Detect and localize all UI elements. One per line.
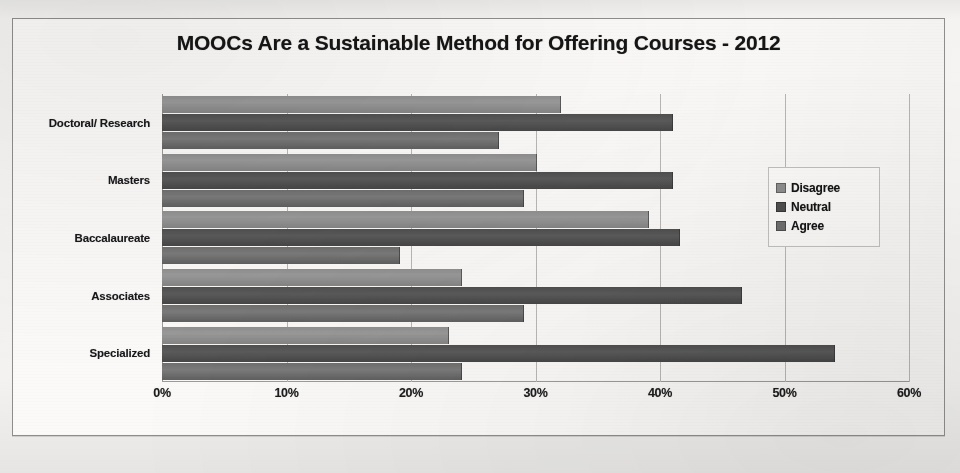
bar-group: Doctoral/ Research: [162, 94, 909, 152]
bar-neutral: [162, 345, 835, 362]
bar-disagree: [162, 96, 561, 113]
legend-label: Neutral: [791, 200, 831, 214]
category-label: Associates: [91, 290, 150, 302]
category-label: Specialized: [90, 347, 150, 359]
bar-neutral: [162, 172, 673, 189]
bar-agree: [162, 305, 524, 322]
bar-disagree: [162, 269, 462, 286]
legend-item-agree: Agree: [776, 219, 872, 233]
category-label: Doctoral/ Research: [49, 117, 150, 129]
bar-agree: [162, 363, 462, 380]
x-axis-tick-label: 30%: [523, 386, 547, 400]
chart-legend: Disagree Neutral Agree: [768, 167, 880, 247]
legend-swatch-icon: [776, 221, 786, 231]
legend-label: Disagree: [791, 181, 840, 195]
category-label: Masters: [108, 174, 150, 186]
bar-agree: [162, 247, 400, 264]
category-label: Baccalaureate: [75, 232, 150, 244]
x-axis-tick-label: 50%: [772, 386, 796, 400]
x-axis-tick-label: 20%: [399, 386, 423, 400]
bar-neutral: [162, 229, 680, 246]
scanned-page: MOOCs Are a Sustainable Method for Offer…: [0, 0, 960, 473]
bar-neutral: [162, 114, 673, 131]
bar-agree: [162, 132, 499, 149]
legend-label: Agree: [791, 219, 824, 233]
bar-disagree: [162, 211, 649, 228]
x-axis-tick-label: 10%: [274, 386, 298, 400]
bar-group: Associates: [162, 267, 909, 325]
bar-group: Specialized: [162, 324, 909, 382]
chart-frame: MOOCs Are a Sustainable Method for Offer…: [12, 18, 945, 436]
legend-item-disagree: Disagree: [776, 181, 872, 195]
legend-swatch-icon: [776, 202, 786, 212]
bar-neutral: [162, 287, 742, 304]
chart-title: MOOCs Are a Sustainable Method for Offer…: [13, 31, 944, 55]
bar-agree: [162, 190, 524, 207]
legend-item-neutral: Neutral: [776, 200, 872, 214]
x-axis-tick-label: 60%: [897, 386, 921, 400]
x-axis-tick-label: 0%: [153, 386, 170, 400]
legend-swatch-icon: [776, 183, 786, 193]
bar-disagree: [162, 327, 449, 344]
gridline: [909, 94, 910, 382]
bar-disagree: [162, 154, 537, 171]
x-axis-tick-label: 40%: [648, 386, 672, 400]
